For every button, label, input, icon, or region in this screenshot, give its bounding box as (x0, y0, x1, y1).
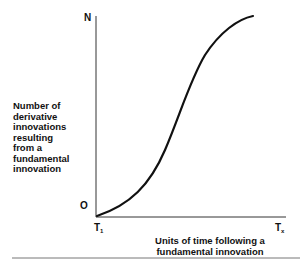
y-tick-n: N (84, 12, 91, 23)
s-curve-chart: N O T1 Tx Number of derivative innovatio… (0, 0, 303, 262)
s-curve-line (97, 16, 253, 216)
x-label-line: Units of time following a (140, 236, 280, 247)
y-label-line: innovations (13, 122, 98, 133)
y-label-line: innovation (13, 164, 98, 175)
y-axis-label: Number of derivative innovations resulti… (13, 101, 98, 175)
x-tick-tx: Tx (275, 222, 284, 234)
x-axis-label: Units of time following a fundamental in… (140, 236, 280, 257)
y-label-line: Number of (13, 101, 98, 112)
x-label-line: fundamental innovation (140, 247, 280, 258)
x-tick-t1: T1 (94, 222, 103, 234)
y-label-line: from a (13, 143, 98, 154)
y-tick-origin: O (80, 200, 88, 211)
